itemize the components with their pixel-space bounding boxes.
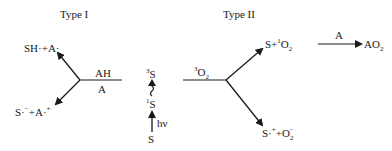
type1-title: Type I bbox=[60, 8, 88, 20]
type2-reagent: 3O2 bbox=[194, 66, 209, 78]
sensitizer-plus: S+ bbox=[265, 38, 277, 50]
oxygen-subscript: 2 bbox=[205, 73, 209, 81]
photosensitization-diagram: Type I SH·+A· AH A S·−+A·+ 3S 1S hν S Ty… bbox=[0, 0, 392, 151]
type1-reagent-below: A bbox=[98, 83, 106, 95]
superoxide-charge: − bbox=[289, 126, 293, 134]
type1-upper-product: SH·+A· bbox=[24, 42, 60, 54]
type1-reagent-above: AH bbox=[95, 67, 111, 79]
type2-lower-product: S·++O2− bbox=[262, 127, 293, 139]
ground-state: S bbox=[148, 133, 154, 145]
oxidation-product-symbol: AO bbox=[364, 38, 380, 50]
oxidation-product-subscript: 2 bbox=[380, 45, 384, 53]
type1-upper-arrow bbox=[58, 53, 80, 80]
singlet-oxygen-subscript: 2 bbox=[289, 45, 293, 53]
singlet-state: 1S bbox=[146, 98, 156, 110]
type1-lower-product: S·−+A·+ bbox=[15, 106, 51, 118]
charge-plus: + bbox=[47, 105, 51, 113]
superoxide-symbol: +O bbox=[276, 127, 290, 139]
superoxide-subscript: 2 bbox=[290, 134, 294, 142]
intersystem-crossing-arrowhead bbox=[148, 79, 156, 86]
triplet-symbol: S bbox=[150, 68, 156, 80]
type1-lower-arrow bbox=[56, 80, 80, 104]
light-label: hν bbox=[157, 117, 167, 129]
radical-cation: +A· bbox=[29, 106, 47, 118]
sensitizer-radical-cation: S· bbox=[262, 127, 272, 139]
oxidation-reagent: A bbox=[335, 29, 343, 41]
type2-lower-arrow bbox=[226, 80, 262, 125]
singlet-oxygen-symbol: O bbox=[281, 38, 289, 50]
type2-title: Type II bbox=[223, 8, 255, 20]
triplet-state: 3S bbox=[146, 68, 156, 80]
type2-upper-product: S+1O2 bbox=[265, 38, 292, 50]
singlet-symbol: S bbox=[150, 98, 156, 110]
radical-anion: S· bbox=[15, 106, 25, 118]
type2-upper-arrow bbox=[226, 49, 262, 80]
oxidation-product: AO2 bbox=[364, 38, 383, 50]
